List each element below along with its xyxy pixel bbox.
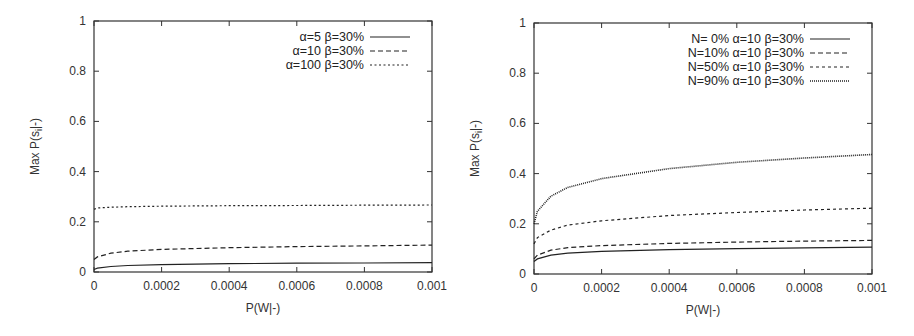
y-tick-label: 0 (79, 265, 86, 279)
y-tick-label: 0 (519, 267, 526, 281)
y-tick-label: 0.8 (69, 64, 86, 78)
y-tick-label: 1 (519, 16, 526, 30)
series-line (94, 205, 432, 209)
x-tick-label: 0.0004 (211, 279, 248, 293)
y-tick-label: 0.4 (509, 167, 526, 181)
chart-figure: 00.20.40.60.8100.00020.00040.00060.00080… (0, 0, 914, 336)
x-axis-label: P(W|-) (246, 301, 280, 315)
y-tick-label: 0.6 (69, 114, 86, 128)
y-tick-label: 0.8 (509, 66, 526, 80)
series-line (94, 245, 432, 259)
y-tick-label: 0.2 (69, 215, 86, 229)
x-tick-label: 0 (531, 281, 538, 295)
y-axis-label: Max P(si|-) (468, 120, 484, 177)
y-tick-label: 0.4 (69, 165, 86, 179)
x-tick-label: 0.0002 (583, 281, 620, 295)
x-axis-label: P(W|-) (686, 303, 720, 317)
x-tick-label: 0.0008 (346, 279, 383, 293)
legend-label: N=10% α=10 β=30% (688, 46, 804, 60)
plot-frame (94, 21, 432, 272)
x-tick-label: 0.001 (857, 281, 887, 295)
x-tick-label: 0.0006 (278, 279, 315, 293)
x-tick-label: 0.001 (417, 279, 447, 293)
series-line (534, 247, 872, 261)
chart-panel-1: 00.20.40.60.8100.00020.00040.00060.00080… (28, 14, 447, 315)
chart-panel-2: 00.20.40.60.8100.00020.00040.00060.00080… (468, 16, 887, 317)
series-line (534, 208, 872, 244)
x-tick-label: 0.0008 (786, 281, 823, 295)
x-tick-label: 0.0002 (143, 279, 180, 293)
y-tick-label: 0.2 (509, 217, 526, 231)
y-tick-label: 1 (79, 14, 86, 28)
legend-label: N= 0% α=10 β=30% (691, 32, 804, 46)
series-line (94, 263, 432, 270)
x-tick-label: 0.0006 (718, 281, 755, 295)
legend-label: α=100 β=30% (286, 58, 364, 72)
y-tick-label: 0.6 (509, 116, 526, 130)
legend-label: α=5 β=30% (300, 30, 364, 44)
legend-label: α=10 β=30% (293, 44, 364, 58)
x-tick-label: 0.0004 (651, 281, 688, 295)
x-tick-label: 0 (91, 279, 98, 293)
legend-label: N=50% α=10 β=30% (688, 60, 804, 74)
y-axis-label: Max P(si|-) (28, 118, 44, 175)
legend-label: N=90% α=10 β=30% (688, 74, 804, 88)
